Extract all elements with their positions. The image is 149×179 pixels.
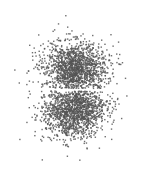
scatter-plot [0, 0, 149, 179]
plot-background [0, 0, 149, 179]
